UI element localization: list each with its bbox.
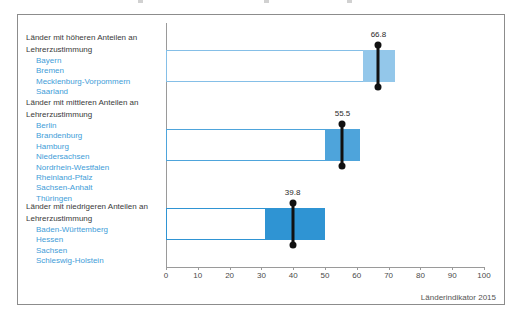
x-axis-tick-label: 80 — [416, 271, 425, 280]
mean-value-label: 55.5 — [335, 109, 351, 118]
x-axis-tick-label: 0 — [164, 271, 168, 280]
x-axis-tick — [230, 267, 231, 270]
x-axis-tick-label: 10 — [193, 271, 202, 280]
mean-marker-line — [341, 124, 344, 166]
mean-marker-line — [291, 203, 294, 245]
state-name: Mecklenburg-Vorpommern — [36, 77, 168, 87]
state-list: Baden-WürttembergHessenSachsenSchleswig-… — [26, 225, 168, 267]
state-name: Baden-Württemberg — [36, 225, 168, 235]
state-name: Niedersachsen — [36, 152, 168, 162]
group-header-line1: Länder mit niedrigeren Anteilen an — [26, 201, 168, 213]
state-name: Bremen — [36, 66, 168, 76]
state-name: Sachsen — [36, 246, 168, 256]
mean-marker-dot — [375, 42, 382, 49]
cropped-text-remnant — [347, 0, 352, 3]
mean-marker-dot — [289, 200, 296, 207]
x-axis-tick-label: 90 — [448, 271, 457, 280]
group-label-block: Länder mit niedrigeren Anteilen anLehrer… — [26, 201, 168, 267]
group-range-bar — [166, 50, 395, 82]
group-header-line2: Lehrerzustimmung — [26, 109, 168, 121]
x-axis-tick — [166, 267, 167, 270]
cropped-text-remnant — [138, 0, 143, 3]
x-axis-tick-label: 50 — [321, 271, 330, 280]
x-axis-tick — [484, 267, 485, 270]
source-note: Länderindikator 2015 — [421, 293, 496, 302]
cropped-text-remnant — [264, 0, 269, 3]
mean-value-label: 39.8 — [285, 188, 301, 197]
x-axis-tick — [357, 267, 358, 270]
state-name: Hessen — [36, 235, 168, 245]
x-axis-tick-label: 70 — [384, 271, 393, 280]
x-axis-tick — [389, 267, 390, 270]
state-name: Brandenburg — [36, 131, 168, 141]
state-name: Bayern — [36, 56, 168, 66]
group-header-line2: Lehrerzustimmung — [26, 213, 168, 225]
state-name: Nordrhein-Westfalen — [36, 163, 168, 173]
mean-marker-line — [377, 45, 380, 87]
mean-value-label: 66.8 — [371, 30, 387, 39]
state-name: Berlin — [36, 121, 168, 131]
x-axis-tick — [198, 267, 199, 270]
group-header-line2: Lehrerzustimmung — [26, 44, 168, 56]
x-axis-tick-label: 30 — [257, 271, 266, 280]
x-axis-tick-label: 40 — [289, 271, 298, 280]
mean-marker-dot — [339, 163, 346, 170]
mean-marker-dot — [289, 242, 296, 249]
group-header-line1: Länder mit höheren Anteilen an — [26, 32, 168, 44]
mean-marker-dot — [375, 84, 382, 91]
state-name: Rheinland-Pfalz — [36, 173, 168, 183]
x-axis-tick-label: 100 — [477, 271, 490, 280]
x-axis-tick — [452, 267, 453, 270]
chart-frame: Länder mit höheren Anteilen anLehrerzust… — [17, 14, 505, 305]
x-axis-tick-label: 20 — [225, 271, 234, 280]
group-label-block: Länder mit mittleren Anteilen anLehrerzu… — [26, 97, 168, 204]
state-name: Schleswig-Holstein — [36, 256, 168, 266]
x-axis-tick — [261, 267, 262, 270]
x-axis-tick — [420, 267, 421, 270]
x-axis-tick-label: 60 — [352, 271, 361, 280]
group-range-fill — [265, 208, 325, 240]
state-name: Hamburg — [36, 142, 168, 152]
state-list: BayernBremenMecklenburg-VorpommernSaarla… — [26, 56, 168, 98]
state-list: BerlinBrandenburgHamburgNiedersachsenNor… — [26, 121, 168, 204]
group-header-line1: Länder mit mittleren Anteilen an — [26, 97, 168, 109]
state-name: Sachsen-Anhalt — [36, 183, 168, 193]
x-axis-tick — [293, 267, 294, 270]
group-label-block: Länder mit höheren Anteilen anLehrerzust… — [26, 32, 168, 98]
x-axis-tick — [325, 267, 326, 270]
mean-marker-dot — [339, 121, 346, 128]
